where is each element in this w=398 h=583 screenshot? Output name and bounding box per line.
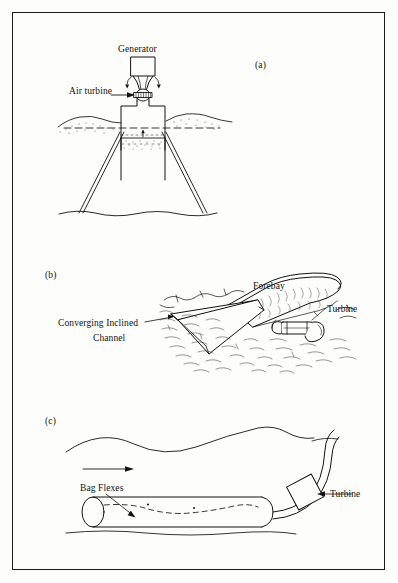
panel-letter-a: (a) — [255, 60, 266, 70]
chamber-right-wall — [149, 101, 165, 150]
panel-letter-c: (c) — [45, 416, 56, 426]
chamber-left-wall — [121, 101, 137, 150]
leg-left-inner — [83, 132, 124, 213]
label-turbine-b: Turbine — [327, 304, 357, 314]
label-air-turbine: Air turbine — [69, 86, 112, 96]
figure-page: Generator Air turbine (a) (b) Forebay Tu… — [0, 0, 398, 583]
bag-end-cap — [82, 497, 104, 527]
leader-air-turbine — [111, 92, 135, 98]
leader-turbine-b — [312, 308, 326, 320]
seabed-line — [59, 211, 217, 216]
label-channel: Channel — [93, 333, 125, 343]
sea-surface-right — [166, 114, 232, 122]
panel-b-artwork — [145, 273, 356, 373]
leg-left-outer — [79, 132, 120, 213]
bag-flex-dashed — [104, 505, 258, 514]
turbine-box-c — [287, 474, 324, 510]
turbine-assembly-b — [272, 320, 324, 342]
generator-box — [131, 57, 155, 76]
flow-arrow-head — [125, 466, 134, 471]
label-forebay: Forebay — [253, 281, 285, 291]
turbine-inlet-elbow — [272, 322, 281, 334]
panel-letter-b: (b) — [45, 270, 57, 280]
wave-surface — [66, 427, 314, 452]
water-stipple — [60, 118, 220, 133]
label-turbine-c: Turbine — [330, 489, 360, 499]
label-bag-flexes: Bag Flexes — [80, 483, 123, 493]
seabed-line-c — [66, 531, 296, 535]
water-rise-arrow — [141, 130, 145, 134]
leg-right-outer — [166, 132, 207, 213]
panel-a-artwork — [58, 57, 232, 216]
label-converging-inclined: Converging Inclined — [58, 318, 138, 328]
leader-converging — [145, 317, 172, 322]
leg-right-inner — [162, 132, 203, 213]
sea-surface-left — [58, 116, 121, 127]
bag-far-end — [262, 497, 273, 527]
label-generator: Generator — [118, 44, 157, 54]
panel-c-artwork — [66, 427, 352, 535]
